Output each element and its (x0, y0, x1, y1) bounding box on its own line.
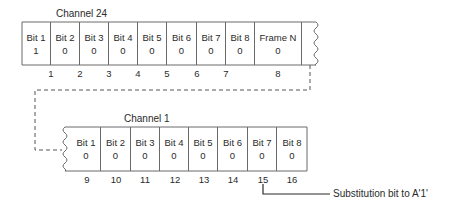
cell-value: 0 (208, 44, 213, 57)
bit-cell: Bit 3 0 (131, 127, 160, 171)
substitution-pointer (263, 184, 330, 194)
cell-value: 0 (237, 44, 242, 57)
frame-cell: Frame N 0 (255, 22, 302, 65)
bit-number: 3 (94, 68, 124, 79)
cell-label: Bit 1 (76, 136, 95, 149)
cell-value: 0 (120, 44, 125, 57)
bit-cell: Bit 4 0 (160, 127, 189, 171)
cell-value: 0 (259, 149, 264, 162)
cell-value: 0 (149, 44, 154, 57)
cell-label: Bit 8 (230, 31, 249, 44)
cell-label: Bit 6 (172, 31, 191, 44)
cell-label: Bit 1 (26, 31, 45, 44)
bit-number: 14 (218, 174, 248, 185)
cell-value: 0 (113, 149, 118, 162)
cell-value: 0 (62, 44, 67, 57)
bit-number: 1 (36, 68, 66, 79)
bit-number: 13 (189, 174, 219, 185)
bit-number: 2 (65, 68, 95, 79)
cell-label: Bit 5 (193, 136, 212, 149)
wavy-break-left (63, 127, 67, 171)
channel-24-title: Channel 24 (56, 8, 107, 19)
bit-number: 12 (160, 174, 190, 185)
cell-label: Bit 4 (164, 136, 183, 149)
bit-number: 6 (182, 68, 212, 79)
bit-number: 11 (130, 174, 160, 185)
bit-cell: Bit 2 0 (101, 127, 131, 171)
cell-label: Bit 2 (55, 31, 74, 44)
bit-number: 10 (101, 174, 131, 185)
bit-cell: Bit 5 0 (189, 127, 218, 171)
bit-cell: Bit 4 0 (109, 22, 138, 65)
cell-value: 0 (142, 149, 147, 162)
channel-1-title: Channel 1 (124, 113, 170, 124)
cell-label: Bit 7 (252, 136, 271, 149)
cell-value: 0 (179, 44, 184, 57)
bit-cell: Bit 1 0 (72, 127, 101, 171)
bit-cell-substituted: Bit 7 0 (248, 127, 277, 171)
cell-label: Bit 5 (142, 31, 161, 44)
bit-cell: Bit 7 0 (197, 22, 226, 65)
bit-cell: Bit 3 0 (80, 22, 109, 65)
bit-number: 7 (211, 68, 241, 79)
cell-label: Bit 2 (106, 136, 125, 149)
bit-cell: Bit 5 0 (138, 22, 167, 65)
wavy-break-right (314, 22, 318, 65)
cell-value: 0 (275, 44, 280, 57)
cell-label: Bit 3 (84, 31, 103, 44)
bit-number: 15 (248, 174, 278, 185)
cell-label: Bit 3 (135, 136, 154, 149)
cell-label: Bit 4 (113, 31, 132, 44)
cell-value: 1 (33, 44, 38, 57)
bit-number: 4 (123, 68, 153, 79)
cell-value: 0 (171, 149, 176, 162)
bit-number: 9 (72, 174, 102, 185)
bit-cell: Bit 2 0 (51, 22, 80, 65)
bit-number: 5 (152, 68, 182, 79)
bit-cell: Bit 1 1 (22, 22, 51, 65)
bit-cell: Bit 8 0 (226, 22, 255, 65)
cell-label: Bit 7 (201, 31, 220, 44)
cell-value: 0 (289, 149, 294, 162)
cell-value: 0 (230, 149, 235, 162)
cell-label: Bit 8 (282, 136, 301, 149)
cell-label: Bit 6 (223, 136, 242, 149)
bit-number: 16 (277, 174, 307, 185)
bit-cell: Bit 6 0 (167, 22, 197, 65)
bit-cell: Bit 6 0 (218, 127, 248, 171)
bit-number: 8 (263, 68, 293, 79)
cell-value: 0 (200, 149, 205, 162)
cell-value: 0 (83, 149, 88, 162)
cell-label: Frame N (260, 31, 297, 44)
bit-cell: Bit 8 0 (277, 127, 307, 171)
substitution-note: Substitution bit to A'1' (333, 188, 428, 199)
cell-value: 0 (91, 44, 96, 57)
